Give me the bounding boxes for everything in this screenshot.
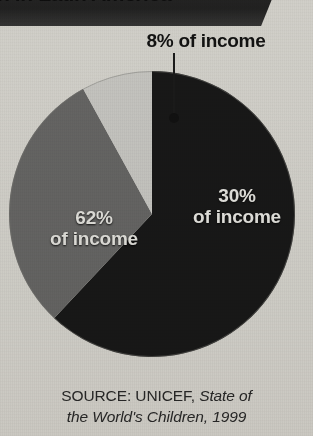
- slice-label-62: 62% of income: [38, 208, 150, 249]
- slice-label-30: 30% of income: [178, 186, 296, 227]
- slice-label-8: 8% of income: [116, 31, 296, 52]
- callout-leader-line: [173, 53, 175, 117]
- title-banner: n in Latin America: [0, 0, 298, 26]
- callout-leader-dot: [169, 113, 179, 123]
- page-title: n in Latin America: [0, 0, 172, 13]
- source-line-1: SOURCE: UNICEF, State of: [0, 385, 313, 406]
- pie-chart-figure: 62% of income 30% of income 8% of income…: [0, 0, 313, 436]
- source-prefix: SOURCE: UNICEF,: [61, 387, 199, 404]
- source-note: SOURCE: UNICEF, State of the World's Chi…: [0, 385, 313, 427]
- source-line-2: the World's Children, 1999: [0, 406, 313, 427]
- source-publication: State of: [199, 387, 252, 404]
